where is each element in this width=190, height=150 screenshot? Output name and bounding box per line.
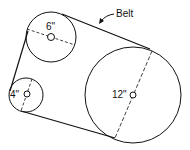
belt-callout: Belt [99, 8, 133, 24]
pulley-12-inch: 12" [85, 47, 181, 143]
pulley-6-inch: 6" [26, 12, 76, 62]
belt-pulley-diagram: 6" 4" 12" Belt [0, 0, 190, 150]
pulley-4-inch: 4" [9, 78, 43, 112]
belt-bottom-segment [21, 111, 115, 138]
axle-icon [24, 91, 30, 97]
pulley-label-4: 4" [10, 89, 20, 100]
belt [10, 14, 150, 138]
belt-label: Belt [116, 8, 133, 19]
belt-left-segment [10, 31, 28, 91]
pulley-label-12: 12" [112, 89, 127, 100]
pulley-label-6: 6" [46, 21, 56, 32]
axle-icon [130, 92, 136, 98]
callout-arrow-icon [101, 14, 114, 21]
axle-icon [48, 34, 55, 41]
